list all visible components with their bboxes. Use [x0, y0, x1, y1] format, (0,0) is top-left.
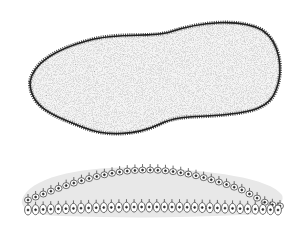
lower-specimen [22, 164, 284, 217]
upper-specimen [20, 15, 290, 140]
illustration [0, 0, 302, 236]
